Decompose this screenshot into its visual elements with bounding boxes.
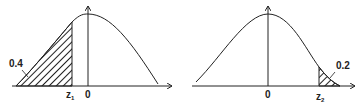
left-panel — [12, 6, 172, 86]
right-z-subscript: 2 — [321, 97, 324, 103]
normal-curves-diagram — [0, 0, 359, 107]
right-area-label: 0.2 — [336, 60, 350, 71]
left-z-subscript: 1 — [71, 95, 74, 101]
left-origin-label: 0 — [85, 89, 91, 100]
right-area-pointer — [330, 72, 335, 78]
right-panel — [192, 6, 355, 86]
left-area-label: 0.4 — [9, 58, 23, 69]
right-z-label: z2 — [316, 91, 324, 103]
left-z-label: z1 — [66, 89, 74, 101]
right-origin-label: 0 — [265, 89, 271, 100]
